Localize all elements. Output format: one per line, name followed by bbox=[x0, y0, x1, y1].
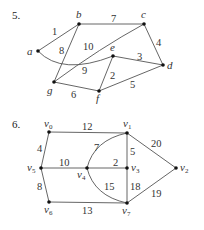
edge-weight: 3 bbox=[137, 51, 142, 62]
node-label-g: g bbox=[47, 84, 53, 96]
node-label-b: b bbox=[76, 8, 82, 20]
graph-6: 6. 12 20 4 7 5 10 2 8 15 18 19 13 v0 v1 bbox=[12, 117, 189, 218]
edge-weight: 4 bbox=[156, 37, 162, 48]
edge-weight: 8 bbox=[59, 45, 64, 56]
node-label-v2: v2 bbox=[180, 161, 189, 175]
edge-g-c bbox=[54, 24, 144, 82]
graph-number: 6. bbox=[12, 118, 21, 130]
node-v4 bbox=[85, 166, 89, 170]
edge-weight: 1 bbox=[52, 26, 57, 37]
graph-number: 5. bbox=[12, 9, 21, 21]
edge-weight: 18 bbox=[130, 181, 141, 192]
node-b bbox=[77, 22, 81, 26]
node-v1 bbox=[125, 131, 129, 135]
graph-diagrams: 5. 1 7 4 3 8 10 9 2 6 5 a b c d e f g bbox=[0, 0, 204, 230]
node-label-f: f bbox=[96, 92, 101, 104]
node-d bbox=[161, 63, 165, 67]
node-v3 bbox=[125, 166, 129, 170]
edge-weight: 7 bbox=[111, 13, 116, 24]
node-e bbox=[111, 54, 115, 58]
edge-a-e bbox=[38, 51, 113, 65]
edge-weight: 2 bbox=[110, 70, 115, 81]
edge-g-f bbox=[54, 82, 99, 91]
edge-weight: 5 bbox=[130, 79, 135, 90]
edge-weight: 15 bbox=[104, 181, 115, 192]
edge-v0-v1 bbox=[49, 132, 127, 133]
node-label-v7: v7 bbox=[122, 204, 131, 218]
node-label-e: e bbox=[110, 41, 115, 53]
node-label-v3: v3 bbox=[131, 161, 140, 175]
edge-weight: 12 bbox=[82, 121, 93, 132]
edge-weight: 19 bbox=[151, 188, 162, 199]
edge-weight: 9 bbox=[82, 65, 87, 76]
node-v5 bbox=[39, 166, 43, 170]
edge-weight: 13 bbox=[82, 205, 93, 216]
node-label-c: c bbox=[141, 8, 146, 20]
edge-weight: 8 bbox=[37, 181, 42, 192]
edge-weight: 10 bbox=[59, 157, 70, 168]
node-label-v1: v1 bbox=[123, 117, 132, 131]
node-label-d: d bbox=[167, 59, 173, 71]
edge-weight: 20 bbox=[151, 138, 162, 149]
graph-5: 5. 1 7 4 3 8 10 9 2 6 5 a b c d e f g bbox=[12, 8, 173, 104]
node-label-v0: v0 bbox=[44, 117, 53, 131]
edge-v6-v7 bbox=[49, 202, 127, 203]
edge-weight: 4 bbox=[37, 143, 43, 154]
node-label-v6: v6 bbox=[44, 203, 53, 217]
node-label-v4: v4 bbox=[77, 168, 86, 182]
edge-weight: 7 bbox=[94, 142, 99, 153]
edge-v4-v1 bbox=[87, 133, 127, 168]
edge-weight: 5 bbox=[130, 146, 135, 157]
edge-weight: 6 bbox=[71, 89, 76, 100]
node-v2 bbox=[174, 166, 178, 170]
node-c bbox=[142, 22, 146, 26]
node-label-a: a bbox=[27, 45, 33, 57]
edge-weight: 2 bbox=[113, 157, 118, 168]
node-g bbox=[52, 80, 56, 84]
node-a bbox=[36, 49, 40, 53]
edge-weight: 10 bbox=[83, 41, 94, 52]
node-label-v5: v5 bbox=[27, 161, 36, 175]
